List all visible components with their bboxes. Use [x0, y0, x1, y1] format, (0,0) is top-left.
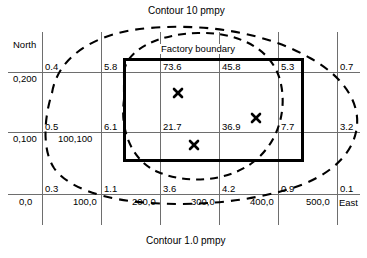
x-tick-label-0-0: 0,0 [19, 197, 32, 207]
cell-value-r2c5: 0.1 [340, 184, 353, 194]
east-axis-label: East [339, 198, 358, 208]
cell-value-r2c0: 0.3 [45, 184, 58, 194]
cell-value-r2c2: 3.6 [163, 184, 176, 194]
x-tick-label-500-0: 500,0 [306, 197, 330, 207]
interior-coordinate-label-100-100: 100,100 [58, 134, 92, 144]
top-contour-title: Contour 10 pmpy [148, 6, 225, 16]
cell-value-r1c0: 0.5 [45, 122, 58, 132]
marker-3 [190, 141, 198, 149]
cell-value-r1c3: 36.9 [222, 122, 241, 132]
cell-value-r0c5: 0.7 [340, 62, 353, 72]
x-tick-label-100-0: 100,0 [73, 197, 97, 207]
cell-value-r0c4: 5.3 [281, 62, 294, 72]
cell-value-r2c3: 4.2 [222, 184, 235, 194]
cell-value-r1c4: 7.7 [281, 122, 294, 132]
cell-value-r0c0: 0.4 [45, 62, 58, 72]
cell-value-r1c5: 3.2 [340, 122, 353, 132]
bottom-contour-title: Contour 1.0 pmpy [146, 236, 226, 246]
x-tick-label-300-0: 300,0 [191, 197, 215, 207]
x-tick-label-200-0: 200,0 [132, 197, 156, 207]
factory-boundary-label: Factory boundary [160, 44, 236, 54]
cell-value-r2c4: 0.9 [281, 184, 294, 194]
factory-boundary-rect [124, 59, 302, 160]
source-markers [174, 89, 260, 149]
cell-value-r1c1: 6.1 [104, 122, 117, 132]
y-tick-label-0-100: 0,100 [13, 134, 37, 144]
contour-inner-10pmpy [123, 33, 283, 180]
cell-value-r0c1: 5.8 [104, 62, 117, 72]
contour-map-figure: Contour 10 pmpy Contour 1.0 pmpy Factory… [0, 0, 367, 258]
cell-value-r0c2: 73.6 [163, 62, 182, 72]
y-tick-label-0-200: 0,200 [13, 74, 37, 84]
cell-value-r1c2: 21.7 [163, 122, 182, 132]
x-tick-label-400-0: 400,0 [250, 197, 274, 207]
cell-value-r2c1: 1.1 [104, 184, 117, 194]
cell-value-r0c3: 45.8 [222, 62, 241, 72]
marker-1 [174, 89, 182, 97]
marker-2 [252, 114, 260, 122]
north-axis-label: North [13, 40, 36, 50]
